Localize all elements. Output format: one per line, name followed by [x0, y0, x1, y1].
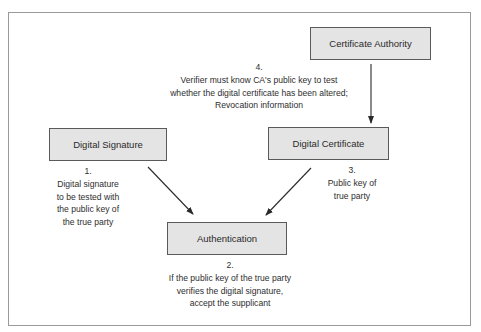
- note-line: true party: [316, 190, 388, 203]
- note-1: 1. Digital signature to be tested with t…: [40, 165, 136, 229]
- note-number: 3.: [316, 164, 388, 177]
- note-line: verifies the digital signature,: [150, 285, 310, 298]
- node-label: Certificate Authority: [329, 38, 411, 49]
- arrow-signature-to-authentication: [148, 167, 193, 214]
- node-digital-signature: Digital Signature: [49, 128, 167, 161]
- node-label: Digital Signature: [73, 139, 143, 150]
- node-label: Authentication: [197, 233, 257, 244]
- note-2: 2. If the public key of the true party v…: [150, 259, 310, 310]
- note-number: 2.: [150, 259, 310, 272]
- note-4: 4. Verifier must know CA's public key to…: [150, 61, 368, 112]
- node-certificate-authority: Certificate Authority: [310, 27, 431, 60]
- note-line: If the public key of the true party: [150, 272, 310, 285]
- note-3: 3. Public key of true party: [316, 164, 388, 202]
- note-line: accept the supplicant: [150, 297, 310, 310]
- node-label: Digital Certificate: [293, 138, 365, 149]
- note-number: 4.: [150, 61, 368, 74]
- note-line: Revocation information: [150, 99, 368, 112]
- note-line: Verifier must know CA's public key to te…: [150, 74, 368, 87]
- note-line: Digital signature: [40, 178, 136, 191]
- arrow-certificate-to-authentication: [266, 168, 311, 215]
- node-authentication: Authentication: [167, 222, 287, 255]
- note-line: Public key of: [316, 177, 388, 190]
- note-number: 1.: [40, 165, 136, 178]
- note-line: the true party: [40, 216, 136, 229]
- note-line: to be tested with: [40, 191, 136, 204]
- note-line: the public key of: [40, 203, 136, 216]
- node-digital-certificate: Digital Certificate: [268, 127, 389, 160]
- note-line: whether the digital certificate has been…: [150, 87, 368, 100]
